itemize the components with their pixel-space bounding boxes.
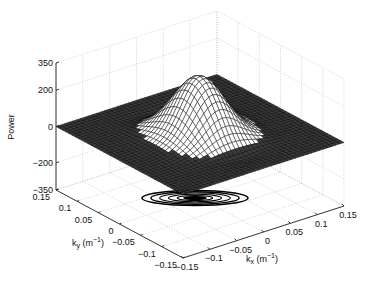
floor-contours — [142, 191, 248, 206]
z-tick-label: 350 — [38, 58, 53, 68]
y-tick-label: 0 — [108, 226, 113, 236]
z-tick-label: 200 — [38, 85, 53, 95]
y-tick-label: −0.15 — [154, 260, 177, 270]
surface-plot: −0.15−0.1−0.0500.050.10.15−0.15−0.1−0.05… — [0, 0, 389, 286]
z-tick-label: 0 — [48, 122, 53, 132]
surface-mesh — [56, 74, 344, 194]
x-tick-label: −0.15 — [176, 262, 199, 272]
x-tick-label: 0.1 — [315, 219, 328, 229]
y-tick-label: −0.1 — [138, 249, 156, 259]
x-tick-label: 0.05 — [286, 227, 304, 237]
z-tick-label: −200 — [33, 158, 53, 168]
z-axis-label: Power — [6, 114, 16, 140]
x-tick-label: 0 — [265, 236, 270, 246]
z-tick-label: −350 — [33, 185, 53, 195]
y-tick-label: −0.05 — [112, 237, 135, 247]
x-tick-label: 0.15 — [339, 210, 357, 220]
x-tick-label: −0.1 — [205, 253, 223, 263]
y-tick-label: 0.1 — [59, 203, 72, 213]
y-axis-label: ky (m−1) — [72, 236, 104, 250]
y-tick-label: 0.05 — [75, 215, 93, 225]
